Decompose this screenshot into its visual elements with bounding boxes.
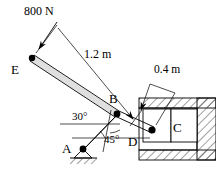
joint-dot-a — [80, 146, 87, 153]
label-point-d: D — [128, 135, 137, 148]
label-point-b: B — [109, 92, 118, 105]
label-point-c: C — [173, 121, 182, 134]
dim-segment-1-2m — [58, 28, 133, 119]
label-dim-1-2m: 1.2 m — [84, 48, 111, 60]
label-angle-30: 30° — [72, 111, 87, 122]
label-load-800n: 800 N — [24, 5, 54, 17]
figure-canvas: 800 N 1.2 m 0.4 m E B A D C 30° 45° — [0, 0, 216, 175]
label-dim-0-4m: 0.4 m — [154, 64, 180, 76]
dim-extension-d — [150, 84, 175, 93]
label-point-a: A — [62, 142, 71, 155]
diagram-svg — [0, 0, 216, 175]
reference-line-vertical-b — [103, 110, 111, 152]
piston-head — [143, 109, 171, 142]
label-angle-45: 45° — [104, 134, 119, 145]
dim-extension-e — [36, 25, 57, 53]
label-point-e: E — [11, 63, 19, 76]
joint-dot-e — [29, 55, 35, 61]
joint-dot-d — [148, 126, 155, 133]
ground-hatching — [70, 158, 97, 164]
cylinder-right-wall — [197, 98, 216, 160]
joint-dot-b — [114, 111, 121, 118]
